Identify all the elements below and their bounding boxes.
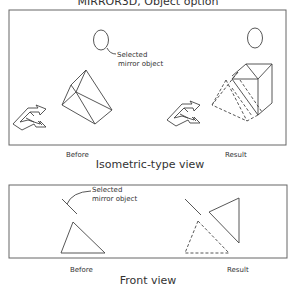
front-panel: Selected mirror object Before Result Fro… — [9, 185, 287, 287]
isometric-panel: Selected mirror object — [9, 10, 286, 171]
ucs-icon-result — [167, 101, 200, 126]
before-label-iso: Before — [66, 151, 89, 159]
triangle-before — [61, 222, 105, 253]
mirror-object-line-before — [62, 199, 77, 214]
mirror-object-ellipse-result — [248, 28, 263, 48]
front-caption: Front view — [120, 274, 177, 287]
callout-mirror-object-iso: mirror object — [118, 60, 163, 68]
callout-selected-iso: Selected — [117, 51, 147, 59]
mirror-object-ellipse-before — [94, 30, 109, 50]
callout-selected-front: Selected — [92, 186, 122, 194]
result-label-iso: Result — [225, 151, 247, 159]
front-panel-frame — [9, 185, 287, 258]
callout-mirror-object-front: mirror object — [92, 195, 137, 203]
result-label-front: Result — [227, 266, 249, 274]
callout-leader-front — [67, 191, 91, 204]
wedge-result — [212, 64, 272, 121]
diagram-title: MIRROR3D, Object option — [78, 0, 219, 8]
mirror-object-line-result — [185, 199, 201, 215]
isometric-caption: Isometric-type view — [96, 158, 205, 171]
before-label-front: Before — [70, 266, 93, 274]
mirror3d-diagram: MIRROR3D, Object option Selected mirror … — [0, 0, 293, 289]
isometric-panel-frame — [9, 10, 286, 145]
wedge-before — [62, 70, 112, 124]
triangle-mirrored — [209, 198, 239, 243]
ucs-icon-before — [13, 105, 46, 130]
callout-leader-iso — [107, 48, 116, 54]
